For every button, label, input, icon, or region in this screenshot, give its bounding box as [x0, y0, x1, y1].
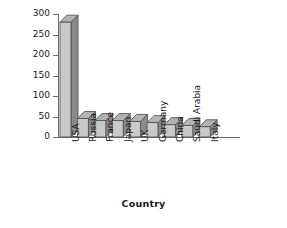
y-axis-tick-label-text: 100: [10, 91, 50, 100]
x-axis-label: Russia: [89, 113, 98, 142]
x-axis-label: Japan: [124, 117, 133, 142]
x-axis-title: Country: [0, 198, 287, 209]
y-axis-tick-label-text: 200: [10, 50, 50, 59]
y-axis-tick-label: 0: [8, 132, 50, 141]
y-axis-tick-label: 300: [8, 9, 50, 18]
x-axis-label: France: [106, 112, 115, 142]
bar-front-face: [60, 22, 71, 137]
y-axis-tick-label-text: 0: [10, 132, 50, 141]
y-axis-tick-label-text: 250: [10, 30, 50, 39]
y-axis-tick-label-text: 150: [10, 71, 50, 80]
y-axis-tick-label-text: 300: [10, 9, 50, 18]
y-axis-tick-label: 250: [8, 30, 50, 39]
y-axis-tick-label-text: 50: [10, 112, 50, 121]
x-axis-label: UK: [141, 130, 150, 143]
y-axis-tick-label: 50: [8, 112, 50, 121]
bar-chart: Billion $ 300250200150100500 USARussiaFr…: [0, 0, 287, 228]
x-axis-label: Italy: [211, 122, 220, 142]
y-axis-tick-label: 150: [8, 71, 50, 80]
x-axis-label: Germany: [159, 101, 168, 142]
x-axis-label: Saudi Arabia: [193, 85, 202, 142]
y-axis-tick-label: 200: [8, 50, 50, 59]
bar-usa: [60, 15, 78, 137]
plot-area: [58, 14, 228, 138]
x-axis-label: USA: [72, 123, 81, 142]
x-axis-label: China: [176, 116, 185, 142]
y-axis-tick-label: 100: [8, 91, 50, 100]
